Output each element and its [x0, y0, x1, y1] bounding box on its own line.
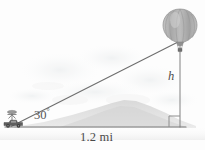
trigonometry-figure: 30° h 1.2 mi	[0, 0, 205, 150]
base-length-label: 1.2 mi	[80, 131, 113, 144]
angle-label: 30°	[34, 108, 50, 122]
height-label: h	[168, 70, 174, 83]
figure-canvas	[0, 0, 205, 150]
degree-symbol: °	[47, 107, 50, 116]
antenna-dish-icon	[7, 110, 16, 113]
angle-value: 30	[34, 108, 47, 122]
